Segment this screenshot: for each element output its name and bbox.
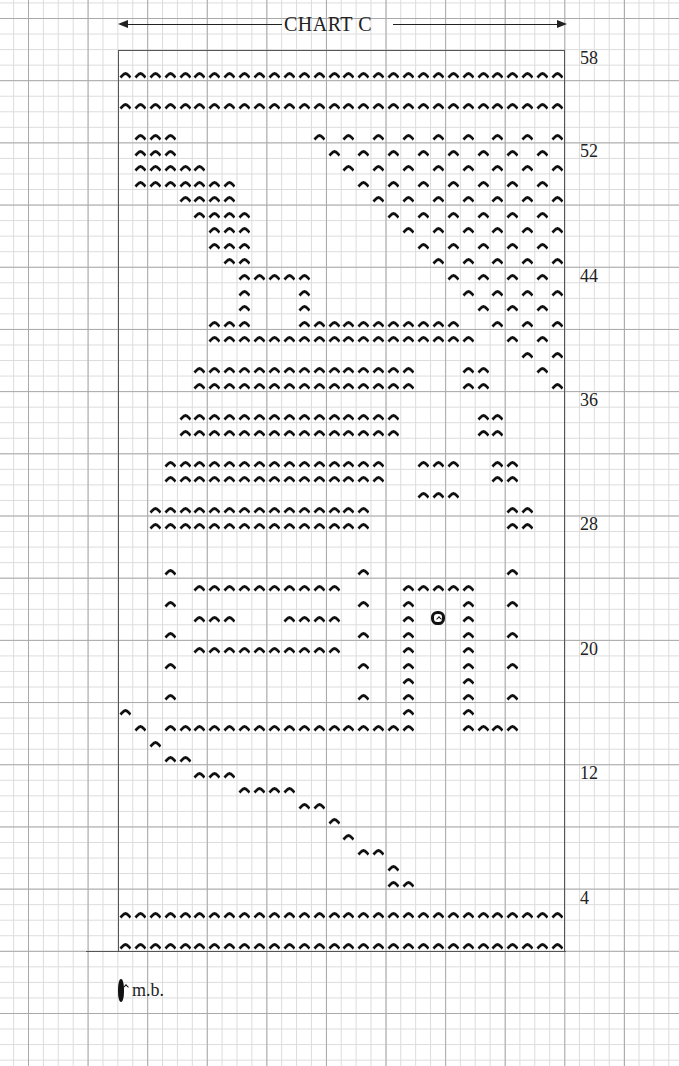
purl-icon <box>179 163 192 176</box>
purl-icon <box>387 70 400 83</box>
purl-icon <box>521 521 534 534</box>
purl-stitch <box>282 377 297 393</box>
purl-icon <box>447 148 460 161</box>
purl-icon <box>357 179 370 192</box>
purl-stitch <box>178 66 193 82</box>
purl-stitch <box>193 719 208 735</box>
purl-icon <box>179 505 192 518</box>
purl-icon <box>402 163 415 176</box>
purl-stitch <box>148 936 163 952</box>
purl-stitch <box>207 936 222 952</box>
purl-icon <box>447 334 460 347</box>
purl-icon <box>283 381 296 394</box>
purl-icon <box>194 163 207 176</box>
purl-icon <box>462 163 475 176</box>
purl-icon <box>372 723 385 736</box>
purl-stitch <box>178 408 193 424</box>
purl-icon <box>402 676 415 689</box>
purl-icon <box>521 194 534 207</box>
purl-icon <box>402 381 415 394</box>
purl-icon <box>208 428 221 441</box>
purl-stitch <box>371 454 386 470</box>
purl-stitch <box>193 470 208 486</box>
purl-stitch <box>371 377 386 393</box>
purl-stitch <box>297 905 312 921</box>
purl-stitch <box>401 361 416 377</box>
purl-stitch <box>282 361 297 377</box>
purl-stitch <box>237 299 252 315</box>
purl-icon <box>253 474 266 487</box>
purl-icon <box>357 505 370 518</box>
purl-stitch <box>505 454 520 470</box>
purl-stitch <box>163 905 178 921</box>
purl-stitch <box>237 283 252 299</box>
purl-stitch <box>312 579 327 595</box>
purl-stitch <box>520 128 535 144</box>
purl-stitch <box>401 159 416 175</box>
purl-stitch <box>476 377 491 393</box>
purl-icon <box>343 428 356 441</box>
purl-icon <box>253 785 266 798</box>
purl-icon <box>402 101 415 114</box>
purl-stitch <box>267 501 282 517</box>
purl-icon <box>477 303 490 316</box>
purl-stitch <box>446 66 461 82</box>
purl-icon <box>447 583 460 596</box>
purl-stitch <box>431 128 446 144</box>
purl-icon <box>357 412 370 425</box>
purl-stitch <box>282 268 297 284</box>
purl-stitch <box>252 361 267 377</box>
purl-stitch <box>267 97 282 113</box>
purl-stitch <box>207 579 222 595</box>
purl-icon <box>402 225 415 238</box>
purl-stitch <box>431 159 446 175</box>
purl-stitch <box>252 408 267 424</box>
purl-stitch <box>297 610 312 626</box>
purl-icon <box>223 365 236 378</box>
purl-stitch <box>133 159 148 175</box>
purl-stitch <box>505 625 520 641</box>
purl-icon <box>417 241 430 254</box>
purl-stitch <box>342 905 357 921</box>
purl-stitch <box>416 143 431 159</box>
purl-stitch <box>237 330 252 346</box>
purl-icon <box>328 319 341 332</box>
purl-icon <box>536 148 549 161</box>
purl-stitch <box>461 703 476 719</box>
purl-stitch <box>356 454 371 470</box>
purl-icon <box>253 910 266 923</box>
purl-icon <box>298 910 311 923</box>
purl-stitch <box>327 377 342 393</box>
purl-stitch <box>356 330 371 346</box>
purl-stitch <box>476 936 491 952</box>
purl-stitch <box>252 330 267 346</box>
purl-icon <box>432 101 445 114</box>
purl-stitch <box>461 330 476 346</box>
purl-stitch <box>431 936 446 952</box>
purl-icon <box>119 910 132 923</box>
row-label: 12 <box>580 764 598 782</box>
purl-icon <box>447 101 460 114</box>
purl-icon <box>462 288 475 301</box>
purl-stitch <box>371 97 386 113</box>
purl-stitch <box>133 128 148 144</box>
purl-icon <box>328 505 341 518</box>
purl-stitch <box>178 174 193 190</box>
purl-icon <box>313 319 326 332</box>
purl-stitch <box>252 423 267 439</box>
purl-stitch <box>207 423 222 439</box>
purl-icon <box>551 288 564 301</box>
purl-stitch <box>476 66 491 82</box>
purl-icon <box>432 490 445 503</box>
legend: m.b. <box>118 980 164 1001</box>
purl-stitch <box>312 128 327 144</box>
purl-stitch <box>461 128 476 144</box>
purl-stitch <box>297 97 312 113</box>
row-label: 36 <box>580 391 598 409</box>
purl-stitch <box>148 174 163 190</box>
purl-stitch <box>461 905 476 921</box>
purl-stitch <box>312 377 327 393</box>
purl-stitch <box>178 936 193 952</box>
purl-icon <box>238 910 251 923</box>
purl-icon <box>238 474 251 487</box>
